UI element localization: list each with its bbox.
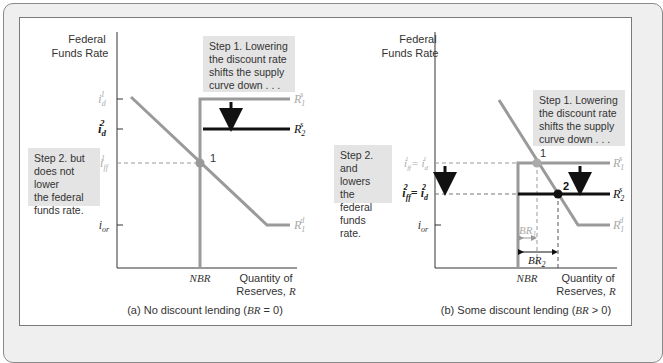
y-axis-label-2: Funds Rate (52, 47, 109, 59)
br2-label: BR2 (528, 254, 545, 269)
nbr-label: NBR (189, 272, 211, 284)
y-axis-label-2: Funds Rate (382, 47, 439, 59)
label-R1d: R1d (612, 216, 624, 234)
tick-ior: ior (418, 218, 429, 234)
label-R1s: R1s (612, 154, 624, 172)
panel-b-caption: (b) Some discount lending (BR > 0) (441, 304, 611, 316)
tick-id1: id1 (98, 90, 106, 108)
panel-b: Federal Funds Rate iff1 = id1 iff2 = id2… (382, 32, 625, 316)
y-axis-label: Federal (399, 33, 436, 45)
point-label-1: 1 (540, 147, 546, 159)
panel-a: Federal Funds Rate id1 id2 iff1 ior 1 R1… (52, 32, 306, 316)
tick-iff1: iff1 (100, 154, 110, 172)
x-axis-label: Quantity of (239, 272, 293, 284)
label-R2s: R2s (293, 120, 305, 138)
y-axis-label: Federal (68, 33, 105, 45)
label-R2s: R2s (612, 185, 624, 203)
point-label-2: 2 (563, 180, 569, 192)
br1-label: BR1 (519, 224, 536, 239)
tick-id2: id2 (98, 118, 107, 138)
tick-ior: ior (99, 218, 110, 234)
label-R1s: R1s (293, 90, 305, 108)
equilibrium-point-1 (533, 159, 542, 168)
supply-curve-1 (200, 99, 290, 268)
label-R1d: R1d (293, 216, 305, 234)
equilibrium-point-2 (554, 190, 563, 199)
nbr-label: NBR (516, 272, 538, 284)
point-label-1: 1 (210, 152, 216, 164)
x-axis-label: Quantity of (561, 272, 615, 284)
tick-eq2: iff2 = id2 (402, 183, 429, 202)
x-axis-label-2: Reserves, R (556, 285, 616, 297)
panel-a-caption: (a) No discount lending (BR = 0) (127, 304, 283, 316)
x-axis-label-2: Reserves, R (236, 285, 296, 297)
tick-eq1: iff1 = id1 (404, 155, 428, 172)
equilibrium-point-1 (196, 159, 205, 168)
